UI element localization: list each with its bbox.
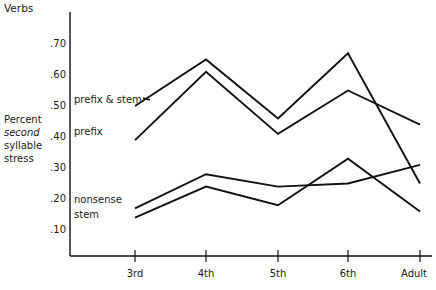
plot-area [0, 0, 436, 290]
series-line-prefix-stem [135, 53, 420, 183]
axes [70, 12, 432, 256]
chart-figure: Verbs Percent second syllable stress .70… [0, 0, 436, 290]
series-lines [135, 53, 420, 217]
series-line-nonsense [135, 165, 420, 208]
